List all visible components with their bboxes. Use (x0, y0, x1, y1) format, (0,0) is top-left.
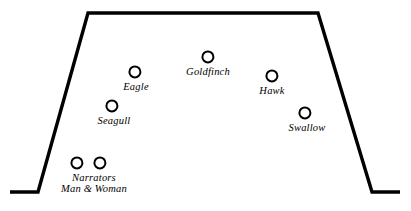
label-line: Goldfinch (186, 66, 230, 77)
stage-blocking-diagram: GoldfinchEagleHawkSeagullSwallowNarrator… (0, 0, 411, 211)
position-label-swallow: Swallow (289, 122, 326, 133)
label-line: Swallow (289, 122, 326, 133)
label-line: Eagle (123, 81, 149, 92)
position-label-hawk: Hawk (259, 85, 284, 96)
label-line: Man & Woman (61, 183, 127, 194)
stage-floor-outline (10, 13, 400, 192)
position-label-goldfinch: Goldfinch (186, 66, 230, 77)
position-label-seagull: Seagull (98, 115, 131, 126)
label-line: Narrators (61, 172, 127, 183)
label-line: Seagull (98, 115, 131, 126)
position-label-narrators: NarratorsMan & Woman (61, 172, 127, 195)
position-label-eagle: Eagle (123, 81, 149, 92)
label-line: Hawk (259, 85, 284, 96)
